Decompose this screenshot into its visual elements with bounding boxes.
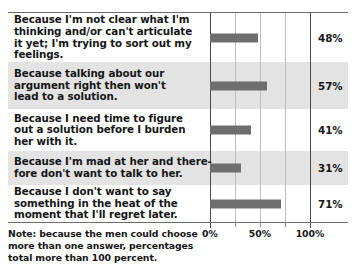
axis-tick-label: 50%: [249, 228, 271, 239]
axis-tick: [260, 223, 261, 227]
row-plot-area: [210, 62, 310, 109]
row-label-line: her with it.: [14, 136, 204, 148]
chart-rows: Because I'm not clear what I'mthinking a…: [8, 13, 348, 222]
axis-tick: [235, 223, 236, 227]
row-label-line: lead to a solution.: [14, 91, 204, 103]
bar: [210, 126, 251, 135]
chart-note-line: total more than 100 percent.: [8, 252, 198, 264]
x-axis: 0%50%100%: [210, 223, 310, 243]
table-row: Because I don't want to saysomething in …: [8, 185, 348, 222]
row-label: Because talking about ourargument right …: [8, 68, 210, 103]
table-row: Because I need time to figureout a solut…: [8, 109, 348, 151]
row-label-line: moment that I'll regret later.: [14, 209, 204, 221]
row-plot-area: [210, 151, 310, 185]
row-value-label: 31%: [310, 162, 348, 174]
bar: [210, 33, 258, 42]
bar-chart-figure: Because I'm not clear what I'mthinking a…: [0, 0, 356, 266]
table-row: Because talking about ourargument right …: [8, 62, 348, 109]
table-row: Because I'm mad at her and there-fore do…: [8, 151, 348, 185]
chart-note-line: Note: because the men could choose: [8, 228, 198, 240]
row-value-label: 71%: [310, 198, 348, 210]
bar: [210, 164, 241, 173]
row-label: Because I'm mad at her and there-fore do…: [8, 156, 210, 179]
row-label: Because I need time to figureout a solut…: [8, 113, 210, 148]
row-label: Because I don't want to saysomething in …: [8, 186, 210, 221]
table-row: Because I'm not clear what I'mthinking a…: [8, 13, 348, 62]
row-plot-area: [210, 185, 310, 222]
chart-note-line: more than one answer, percentages: [8, 240, 198, 252]
row-value-label: 41%: [310, 124, 348, 136]
row-label-line: Because talking about our: [14, 68, 204, 80]
row-value-label: 48%: [310, 32, 348, 44]
row-plot-area: [210, 13, 310, 62]
value-column-divider: [310, 13, 311, 222]
row-label-line: Because I don't want to say: [14, 186, 204, 198]
bar: [210, 81, 267, 90]
axis-tick-label: 100%: [296, 228, 325, 239]
row-label-line: thinking and/or can't articulate: [14, 26, 204, 38]
bar: [210, 199, 281, 208]
row-label-line: fore don't want to talk to her.: [14, 168, 204, 180]
row-label: Because I'm not clear what I'mthinking a…: [8, 14, 210, 60]
row-label-line: feelings.: [14, 49, 204, 61]
chart-note: Note: because the men could choosemore t…: [8, 228, 198, 265]
row-value-label: 57%: [310, 80, 348, 92]
chart-body: Because I'm not clear what I'mthinking a…: [8, 13, 348, 222]
axis-tick: [285, 223, 286, 227]
row-plot-area: [210, 109, 310, 151]
axis-tick-label: 0%: [202, 228, 218, 239]
